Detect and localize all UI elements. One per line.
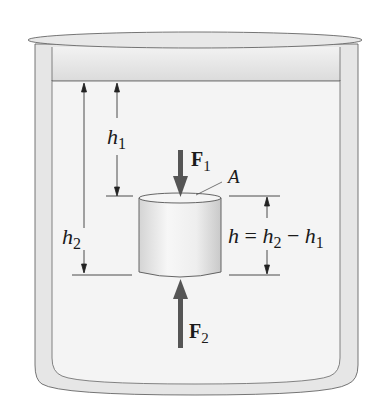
submerged-cylinder <box>139 193 221 277</box>
buoyancy-diagram: h2 h1 F1 A h = h2 − h1 <box>0 0 389 412</box>
beaker-rim <box>28 32 362 48</box>
area-label: A <box>226 166 240 187</box>
air-gap <box>52 47 340 80</box>
